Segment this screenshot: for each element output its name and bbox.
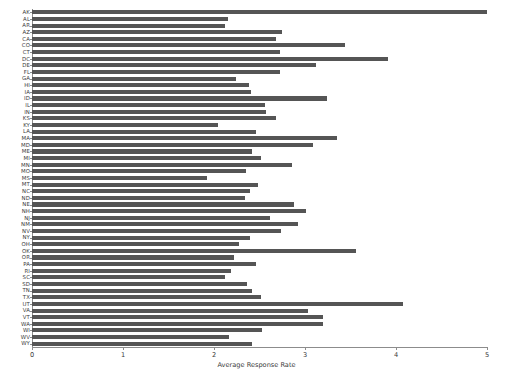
bar-il (32, 102, 487, 109)
bar-sd (32, 281, 487, 288)
bar-nv (32, 228, 487, 235)
bar-rect (32, 342, 252, 346)
x-tick-label-4: 4 (394, 351, 398, 359)
bar-rect (32, 249, 356, 253)
x-axis-line (32, 347, 488, 348)
bar-rect (32, 183, 258, 187)
y-tick-label-oh: OH (0, 241, 30, 247)
y-tick-label-de: DE (0, 62, 30, 68)
bar-fl (32, 69, 487, 76)
y-tick-mark (30, 45, 32, 46)
y-tick-label-sc: SC (0, 274, 30, 280)
bar-rect (32, 30, 282, 34)
bar-wi (32, 327, 487, 334)
y-tick-label-mo: MO (0, 168, 30, 174)
y-tick-mark (30, 92, 32, 93)
y-tick-mark (30, 324, 32, 325)
y-tick-label-nc: NC (0, 188, 30, 194)
y-tick-label-in: IN (0, 109, 30, 115)
y-tick-label-hi: HI (0, 82, 30, 88)
bar-hi (32, 82, 487, 89)
y-tick-mark (30, 85, 32, 86)
y-tick-label-wi: WI (0, 327, 30, 333)
x-tick-label-5: 5 (485, 351, 489, 359)
y-tick-mark (30, 297, 32, 298)
bar-ak (32, 9, 487, 16)
y-tick-label-ut: UT (0, 301, 30, 307)
bar-rect (32, 275, 225, 279)
bar-rect (32, 136, 337, 140)
bar-rect (32, 63, 316, 67)
x-tick-mark (396, 347, 397, 350)
bar-rect (32, 236, 250, 240)
y-tick-mark (30, 311, 32, 312)
y-tick-label-tn: TN (0, 287, 30, 293)
y-tick-label-wv: WV (0, 334, 30, 340)
y-tick-label-nm: NM (0, 221, 30, 227)
y-tick-mark (30, 238, 32, 239)
bar-la (32, 128, 487, 135)
bar-md (32, 142, 487, 149)
y-tick-label-nd: ND (0, 195, 30, 201)
bar-mo (32, 168, 487, 175)
y-tick-label-co: CO (0, 42, 30, 48)
x-tick-mark (123, 347, 124, 350)
y-tick-mark (30, 251, 32, 252)
y-tick-label-wa: WA (0, 321, 30, 327)
y-tick-label-ct: CT (0, 49, 30, 55)
bar-rect (32, 322, 323, 326)
bar-sc (32, 274, 487, 281)
bar-rect (32, 156, 261, 160)
bar-or (32, 254, 487, 261)
bar-rect (32, 10, 487, 14)
y-tick-label-nv: NV (0, 228, 30, 234)
bar-ar (32, 22, 487, 29)
bar-rect (32, 70, 280, 74)
bar-rect (32, 189, 250, 193)
bar-ct (32, 49, 487, 56)
y-tick-mark (30, 12, 32, 13)
bar-rect (32, 116, 276, 120)
y-tick-label-ms: MS (0, 175, 30, 181)
y-tick-mark (30, 32, 32, 33)
bar-rect (32, 96, 327, 100)
bar-co (32, 42, 487, 49)
y-tick-label-ia: IA (0, 89, 30, 95)
y-tick-label-dc: DC (0, 56, 30, 62)
y-tick-label-me: ME (0, 148, 30, 154)
y-tick-mark (30, 72, 32, 73)
bar-id (32, 95, 487, 102)
bar-ne (32, 201, 487, 208)
bar-rect (32, 196, 245, 200)
y-tick-label-mn: MN (0, 162, 30, 168)
y-tick-mark (30, 178, 32, 179)
bar-rect (32, 163, 292, 167)
bar-nc (32, 188, 487, 195)
y-tick-label-ak: AK (0, 9, 30, 15)
y-tick-label-ks: KS (0, 115, 30, 121)
y-tick-mark (30, 258, 32, 259)
bar-rect (32, 309, 308, 313)
y-tick-label-ma: MA (0, 135, 30, 141)
y-tick-label-pa: PA (0, 261, 30, 267)
x-axis-title: Average Response Rate (0, 361, 513, 369)
bar-nd (32, 195, 487, 202)
bar-wv (32, 334, 487, 341)
bar-rect (32, 315, 323, 319)
y-tick-label-va: VA (0, 307, 30, 313)
y-tick-mark (30, 158, 32, 159)
y-tick-mark (30, 151, 32, 152)
bar-dc (32, 55, 487, 62)
y-tick-label-ky: KY (0, 122, 30, 128)
y-tick-label-al: AL (0, 16, 30, 22)
y-tick-mark (30, 59, 32, 60)
bar-rect (32, 50, 280, 54)
y-tick-mark (30, 198, 32, 199)
x-tick-label-0: 0 (30, 351, 34, 359)
bar-tn (32, 287, 487, 294)
y-tick-mark (30, 191, 32, 192)
bar-ut (32, 301, 487, 308)
bar-me (32, 148, 487, 155)
y-tick-mark (30, 19, 32, 20)
y-tick-mark (30, 231, 32, 232)
